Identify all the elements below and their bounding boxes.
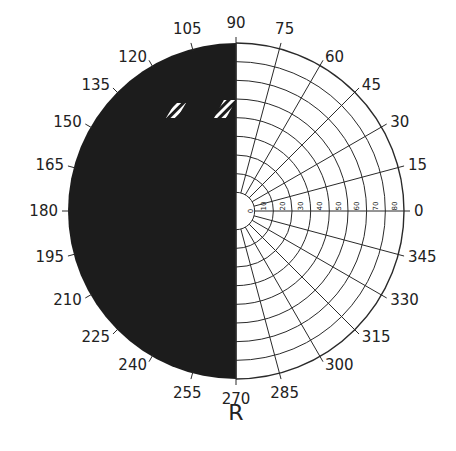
angle-label-240: 240 (118, 356, 147, 374)
angle-label-210: 210 (53, 291, 82, 309)
angle-label-315: 315 (362, 328, 391, 346)
angle-label-60: 60 (325, 48, 344, 66)
radial-label-50: 50 (335, 202, 343, 211)
angle-label-135: 135 (81, 76, 110, 94)
angle-label-15: 15 (408, 156, 427, 174)
meridian-45 (249, 88, 359, 198)
angle-label-30: 30 (390, 113, 409, 131)
angle-label-75: 75 (275, 20, 294, 38)
angle-label-300: 300 (325, 356, 354, 374)
meridian-315 (249, 224, 359, 334)
radial-label-20: 20 (279, 202, 287, 211)
radial-label-80: 80 (391, 202, 399, 211)
tick-135 (113, 88, 119, 94)
eye-label: R (228, 400, 243, 425)
angle-label-45: 45 (362, 76, 381, 94)
radial-label-30: 30 (297, 202, 305, 211)
angle-label-345: 345 (408, 248, 437, 266)
tick-225 (113, 328, 119, 334)
angle-label-225: 225 (81, 328, 110, 346)
angle-label-150: 150 (53, 113, 82, 131)
visual-field-chart: 0153045607590105120135150165180195210225… (0, 0, 456, 451)
radial-label-10: 10 (260, 202, 268, 211)
radial-label-center: 0 (247, 209, 255, 213)
angle-label-165: 165 (35, 156, 64, 174)
radial-label-60: 60 (353, 202, 361, 211)
angle-label-255: 255 (173, 384, 202, 402)
angle-label-90: 90 (226, 14, 245, 32)
radial-label-70: 70 (372, 202, 380, 211)
angle-label-330: 330 (390, 291, 419, 309)
radial-label-40: 40 (316, 202, 324, 211)
angle-label-195: 195 (35, 248, 64, 266)
angle-label-0: 0 (414, 202, 424, 220)
angle-label-105: 105 (173, 20, 202, 38)
angle-label-285: 285 (270, 384, 299, 402)
angle-label-120: 120 (118, 48, 147, 66)
angle-label-180: 180 (29, 202, 58, 220)
